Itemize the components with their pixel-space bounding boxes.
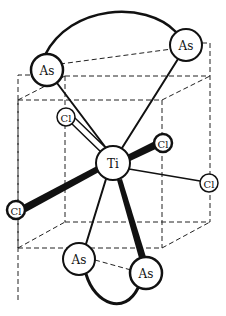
ticl4-diarsine-structure: As As Cl Cl Cl Cl Ti As As [0,0,226,316]
atom-cl-right: Cl [200,174,218,192]
upper-chelate-arc [45,12,176,55]
atom-as-lower-left: As [63,243,95,275]
diagram-container: As As Cl Cl Cl Cl Ti As As [0,0,226,316]
atom-as-upper-right: As [170,29,202,61]
atom-cl-upper-right: Cl [154,134,172,152]
svg-text:Cl: Cl [204,179,215,190]
atom-as-upper-left: As [31,54,63,86]
svg-text:Cl: Cl [11,206,22,217]
atom-as-lower-right: As [130,257,162,289]
svg-text:As: As [138,267,154,281]
wedge-bond-as4 [117,179,146,258]
svg-text:As: As [71,253,87,267]
svg-text:As: As [39,64,55,78]
svg-text:Ti: Ti [107,157,119,171]
atom-ti-central: Ti [96,146,130,180]
svg-text:Cl: Cl [158,139,169,150]
atom-cl-left: Cl [7,201,25,219]
svg-text:Cl: Cl [61,113,72,124]
wedge-bond-cl4 [23,166,99,212]
svg-text:As: As [178,39,194,53]
atom-cl-upper-left: Cl [57,108,75,126]
